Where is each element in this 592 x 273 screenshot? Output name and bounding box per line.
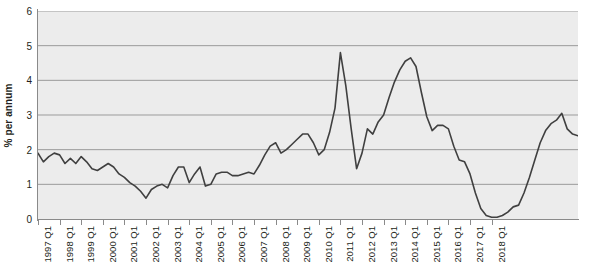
x-axis-tick-mark [319,220,320,225]
x-axis-tick-mark [254,220,255,225]
y-axis-tick-label: 3 [18,110,36,121]
y-axis-title-text: % per annum [4,83,15,147]
x-axis-tick-label: 2012 Q1 [366,226,377,262]
y-axis-tick-label: 5 [18,40,36,51]
x-axis-tick-label: 2013 Q1 [388,226,399,262]
x-axis-tick-label: 2008 Q1 [280,226,291,262]
x-axis-tick-mark [81,220,82,225]
x-axis-tick-mark [211,220,212,225]
x-axis-tick-mark [448,220,449,225]
y-axis-tick-labels: 0123456 [18,0,36,273]
x-axis-tick-label: 1999 Q1 [85,226,96,262]
x-axis-tick-mark [60,220,61,225]
x-axis-tick-label: 2004 Q1 [193,226,204,262]
x-axis-tick-mark [384,220,385,225]
x-axis-tick-mark [232,220,233,225]
x-axis-tick-label: 2010 Q1 [323,226,334,262]
x-axis-tick-label: 2003 Q1 [172,226,183,262]
y-axis-tick-label: 1 [18,179,36,190]
y-axis-title: % per annum [0,0,18,230]
x-axis-tick-label: 2009 Q1 [301,226,312,262]
y-axis-spine [37,9,38,221]
plot-svg [38,11,578,219]
x-axis-tick-mark [38,220,39,225]
x-axis-tick-mark [492,220,493,225]
gridlines [38,11,578,184]
x-axis-tick-mark [340,220,341,225]
y-axis-tick-label: 6 [18,6,36,17]
x-axis-tick-label: 2005 Q1 [215,226,226,262]
x-axis-tick-label: 2011 Q1 [344,226,355,262]
y-axis-tick-label: 2 [18,144,36,155]
x-axis-tick-mark [427,220,428,225]
x-axis-tick-mark [189,220,190,225]
x-axis-tick-label: 2015 Q1 [431,226,442,262]
x-axis-tick-mark [103,220,104,225]
x-axis-tick-label: 2000 Q1 [107,226,118,262]
x-axis-tick-label: 2001 Q1 [128,226,139,262]
x-axis-tick-label: 2018 Q1 [496,226,507,262]
x-axis-tick-mark [297,220,298,225]
plot-area [38,11,578,219]
x-axis-tick-label: 2016 Q1 [452,226,463,262]
x-axis-tick-mark [168,220,169,225]
x-axis-tick-label: 1998 Q1 [64,226,75,262]
x-axis-tick-mark [124,220,125,225]
x-axis-tick-mark [146,220,147,225]
x-axis-tick-label: 2007 Q1 [258,226,269,262]
data-series-line [38,53,578,218]
x-axis-tick-label: 1997 Q1 [42,226,53,262]
y-axis-tick-label: 0 [18,214,36,225]
x-axis-tick-mark [362,220,363,225]
x-axis-tick-labels: 1997 Q11998 Q11999 Q12000 Q12001 Q12002 … [38,226,578,273]
x-axis-tick-mark [276,220,277,225]
x-axis-tick-label: 2017 Q1 [474,226,485,262]
x-axis-tick-mark [470,220,471,225]
x-axis-tick-label: 2014 Q1 [409,226,420,262]
x-axis-tick-label: 2006 Q1 [236,226,247,262]
x-axis-tick-label: 2002 Q1 [150,226,161,262]
x-axis-tick-mark [405,220,406,225]
line-chart-figure: % per annum 0123456 1997 Q11998 Q11999 Q… [0,0,592,273]
y-axis-tick-label: 4 [18,75,36,86]
